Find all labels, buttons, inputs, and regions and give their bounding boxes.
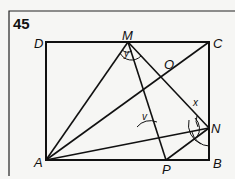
- label-a: A: [33, 155, 43, 170]
- label-c: C: [213, 36, 223, 51]
- label-p: P: [162, 162, 171, 177]
- segment-an: [46, 128, 209, 160]
- label-d: D: [34, 36, 43, 51]
- segment-mn: [128, 42, 209, 128]
- geometry-figure: 45 D M C O N A P B y v x: [0, 0, 235, 179]
- angle-label-v: v: [142, 111, 148, 122]
- label-o: O: [164, 57, 174, 72]
- label-b: B: [213, 156, 222, 171]
- angle-label-y: y: [123, 48, 130, 59]
- angle-label-x: x: [192, 97, 199, 108]
- figure-number: 45: [13, 15, 30, 32]
- label-m: M: [122, 28, 133, 43]
- segment-am: [46, 42, 128, 160]
- label-n: N: [211, 121, 221, 136]
